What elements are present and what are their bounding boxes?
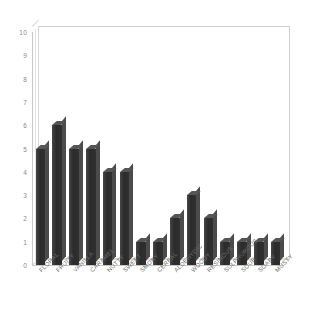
bar-side-face: [45, 140, 49, 261]
y-axis-tick-2: 2: [23, 215, 27, 222]
x-axis-category-labels: FLORALFRUITYVANILLACARAMELNUTTYSWEETSMOK…: [32, 267, 284, 322]
bar-slot: [237, 32, 246, 265]
y-axis-tick-6: 6: [23, 122, 27, 129]
bar-slot: [69, 32, 78, 265]
bar-slot: [86, 32, 95, 265]
bar-slot: [254, 32, 263, 265]
y-axis-tick-7: 7: [23, 98, 27, 105]
bars-layer: [32, 32, 284, 265]
bar-slot: [36, 32, 45, 265]
y-axis-tick-3: 3: [23, 192, 27, 199]
y-axis-tick-labels: 012345678910: [0, 0, 32, 322]
bar-slot: [187, 32, 196, 265]
bar-front-face: [86, 149, 95, 266]
bar-slot: [204, 32, 213, 265]
y-axis-tick-9: 9: [23, 52, 27, 59]
bar-vanilla[interactable]: [69, 149, 78, 266]
bar-side-face: [112, 163, 116, 261]
bar-slot: [220, 32, 229, 265]
bar-side-face: [96, 140, 100, 261]
bar-front-face: [69, 149, 78, 266]
bar-slot: [136, 32, 145, 265]
bar-slot: [271, 32, 280, 265]
bar-slot: [170, 32, 179, 265]
y-axis-tick-1: 1: [23, 238, 27, 245]
y-axis-tick-4: 4: [23, 168, 27, 175]
bar-slot: [52, 32, 61, 265]
bar-front-face: [36, 149, 45, 266]
y-axis-tick-8: 8: [23, 75, 27, 82]
y-axis-tick-10: 10: [19, 29, 27, 36]
bar-fruity[interactable]: [52, 125, 61, 265]
bar-caramel[interactable]: [86, 149, 95, 266]
bar-front-face: [52, 125, 61, 265]
bar-slot: [120, 32, 129, 265]
bar-chart: 012345678910 FLORALFRUITYVANILLACARAMELN…: [0, 0, 322, 322]
bar-side-face: [79, 140, 83, 261]
bar-front-face: [120, 172, 129, 265]
bar-side-face: [62, 116, 66, 261]
bar-sweet[interactable]: [120, 172, 129, 265]
bar-side-face: [129, 163, 133, 261]
y-axis-tick-0: 0: [23, 262, 27, 269]
bar-slot: [103, 32, 112, 265]
bar-slot: [153, 32, 162, 265]
y-axis-tick-5: 5: [23, 145, 27, 152]
bar-floral[interactable]: [36, 149, 45, 266]
